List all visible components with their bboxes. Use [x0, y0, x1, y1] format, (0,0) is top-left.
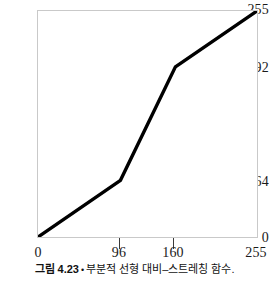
figure-container: 255 192 64 0 0 96 160 255 그림 4.23•부분적 선형…	[0, 0, 269, 282]
figure-caption: 그림 4.23•부분적 선형 대비–스트레칭 함수.	[0, 262, 269, 277]
x-tick-label-160: 160	[162, 246, 184, 260]
x-tick-label-96: 96	[112, 246, 126, 260]
x-tick-label-255: 255	[245, 246, 267, 260]
data-curve-piecewise-linear	[38, 11, 257, 237]
caption-text: 부분적 선형 대비–스트레칭 함수.	[86, 263, 234, 275]
caption-figure-number: 그림 4.23	[35, 263, 79, 275]
x-tick-label-0: 0	[34, 246, 41, 260]
plot-area	[37, 10, 258, 238]
chart-svg	[38, 11, 257, 237]
